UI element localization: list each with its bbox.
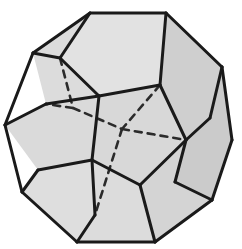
- face-left: [5, 96, 99, 170]
- dodecahedron-drawing: Regular dodecahedron: [0, 0, 242, 249]
- dodecahedron-figure: o o Regular dodecahedron: [0, 0, 242, 249]
